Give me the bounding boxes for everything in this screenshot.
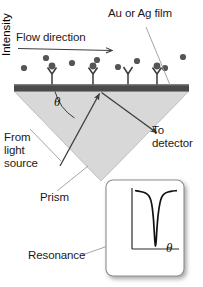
from-light-source-label: From light source [4, 131, 38, 170]
metal-film-bar [14, 85, 189, 92]
flow-direction-label: Flow direction [16, 31, 86, 44]
au-film-leader-line [146, 27, 170, 85]
receptor-unbound [124, 67, 133, 85]
receptor-bound-3 [153, 63, 162, 85]
receptor-bound-1 [48, 63, 57, 85]
resonance-label: Resonance [28, 249, 85, 262]
theta-angle-label: θ [54, 94, 60, 110]
to-detector-label: To detector [152, 124, 193, 150]
flow-direction-arrow [18, 49, 112, 51]
receptor-bound-2 [89, 63, 98, 85]
spr-biosensor-figure: Au or Ag film Flow direction From light … [0, 0, 203, 287]
prism-leader-line [57, 166, 88, 191]
inset-resonance-chart [106, 180, 184, 276]
inset-y-axis-label: Intensity [0, 0, 12, 56]
au-or-ag-film-label: Au or Ag film [108, 7, 172, 20]
prism-label: Prism [40, 191, 69, 204]
inset-x-axis-label: θ [166, 240, 172, 256]
